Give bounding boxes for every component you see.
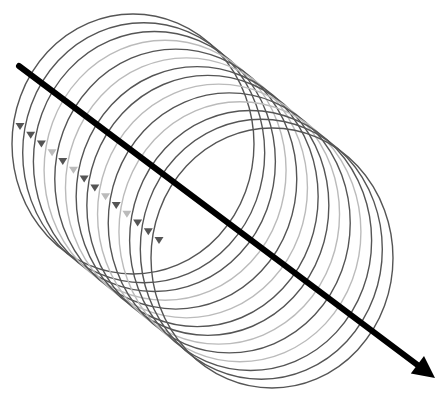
field-direction-arrow-icon (69, 167, 78, 174)
diagram-canvas: Magnetic field loops around a current-ca… (0, 0, 445, 403)
field-direction-arrow-icon (80, 176, 89, 183)
field-direction-arrow-icon (48, 149, 57, 156)
field-direction-arrow-icon (16, 123, 25, 130)
field-lines-figure (0, 0, 445, 403)
field-direction-arrow-icon (58, 158, 67, 165)
field-direction-arrow-icon (90, 184, 99, 191)
field-direction-arrow-icon (37, 141, 46, 148)
wire-shaft (19, 66, 417, 365)
field-direction-arrow-icon (112, 202, 121, 209)
field-direction-arrow-icon (133, 219, 142, 226)
field-direction-arrow-icon (144, 228, 153, 235)
field-direction-arrow-icon (122, 211, 131, 218)
field-direction-arrow-icon (101, 193, 110, 200)
field-direction-arrow-icon (155, 237, 164, 244)
field-direction-arrow-icon (26, 132, 35, 139)
